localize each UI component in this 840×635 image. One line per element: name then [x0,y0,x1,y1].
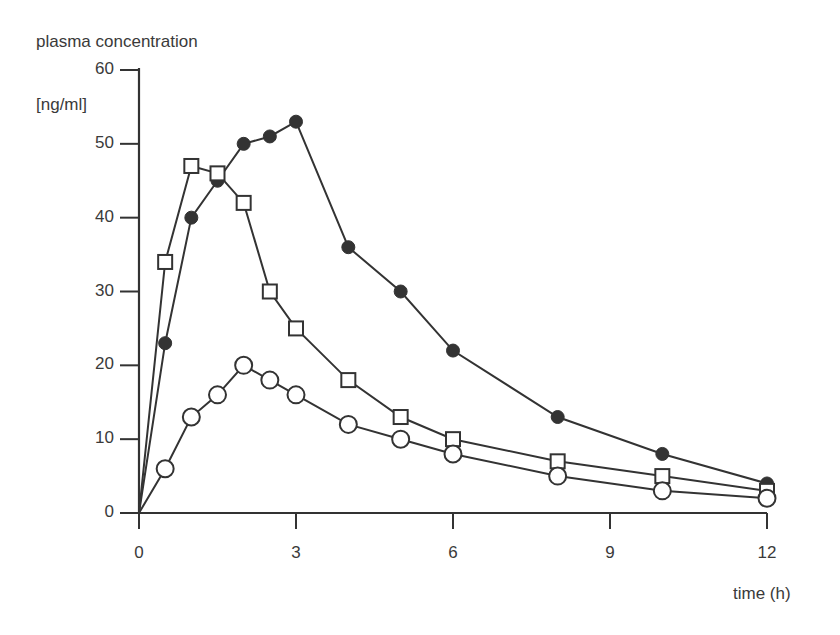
data-point-filled-circle [394,285,407,298]
data-point-open-circle [157,460,174,477]
data-point-open-square [289,321,303,335]
data-point-open-circle [261,372,278,389]
data-point-filled-circle [447,344,460,357]
line-chart [0,0,840,635]
data-point-open-circle [445,445,462,462]
data-point-filled-circle [551,411,564,424]
data-point-open-square [394,410,408,424]
data-point-filled-circle [290,115,303,128]
data-point-open-square [446,432,460,446]
data-point-open-circle [288,386,305,403]
data-point-filled-circle [159,337,172,350]
data-point-filled-circle [263,130,276,143]
data-point-open-square [184,159,198,173]
data-point-open-circle [235,357,252,374]
data-point-open-circle [654,482,671,499]
data-point-open-circle [183,409,200,426]
data-point-open-circle [392,431,409,448]
data-point-filled-circle [342,241,355,254]
data-point-open-square [263,285,277,299]
data-point-open-square [211,166,225,180]
data-point-open-circle [340,416,357,433]
data-point-open-circle [759,490,776,507]
data-point-open-square [237,196,251,210]
data-point-open-square [158,255,172,269]
data-point-open-square [341,373,355,387]
data-point-filled-circle [237,137,250,150]
data-point-open-circle [549,468,566,485]
data-point-open-square [551,454,565,468]
data-point-filled-circle [185,211,198,224]
data-point-filled-circle [656,447,669,460]
data-point-open-square [655,469,669,483]
data-point-open-circle [209,386,226,403]
